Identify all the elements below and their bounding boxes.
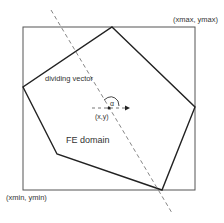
label-xmax-ymax: (xmax, ymax): [173, 15, 219, 24]
label-angle-alpha: α: [110, 100, 114, 107]
label-fe-domain: FE domain: [66, 135, 110, 145]
label-point-xy: (x,y): [95, 113, 109, 121]
dividing-vector-line: [51, 10, 172, 213]
label-dividing-vector: dividing vector: [45, 74, 93, 83]
arrowhead-icon: [125, 106, 130, 111]
label-xmin-ymin: (xmin, ymin): [6, 193, 47, 202]
fe-domain-diagram: (xmax, ymax) (xmin, ymin) dividing vecto…: [0, 0, 224, 223]
